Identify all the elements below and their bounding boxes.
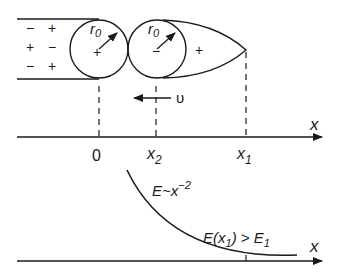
upper-axis-label: x <box>309 115 319 134</box>
velocity-label: υ <box>176 89 184 106</box>
circle-1-center-mark: + <box>93 44 101 60</box>
svg-text:−: − <box>48 39 56 55</box>
tick-label-x1: x1 <box>236 145 252 167</box>
svg-text:−: − <box>26 20 34 36</box>
teardrop-tail <box>163 20 246 78</box>
channel-charges: − + + − − + <box>26 20 56 74</box>
circle-2-radius-label: r0 <box>148 20 160 39</box>
circle-1-radius-label: r0 <box>90 20 102 39</box>
circle-2-center-mark: − <box>152 43 160 59</box>
svg-text:+: + <box>48 20 56 36</box>
lower-axis-label: x <box>309 237 319 256</box>
radius-arrow-1 <box>99 33 117 49</box>
tick-label-0: 0 <box>92 147 101 164</box>
curve-label: E~x−2 <box>152 179 191 199</box>
svg-text:−: − <box>26 58 34 74</box>
diagram-canvas: − + + − − + + r0 − r0 + υ x 0 x2 x1 E~x−… <box>0 0 341 279</box>
tick-label-x2: x2 <box>146 145 162 167</box>
svg-text:+: + <box>26 39 34 55</box>
svg-text:+: + <box>48 58 56 74</box>
tail-charge: + <box>195 42 203 58</box>
